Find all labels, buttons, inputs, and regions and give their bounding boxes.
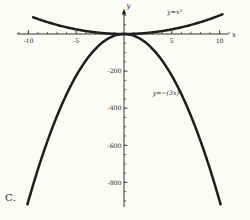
y-axis-tick-label: -800	[108, 179, 122, 186]
x-axis-label: x	[232, 31, 236, 39]
x-axis-tick-label: -10	[23, 37, 33, 44]
answer-choice-label: C.	[5, 192, 16, 203]
y-axis-tick-label: -200	[108, 67, 122, 74]
parabolas-plot: xy-10-5510-200-400-600-800y=x²y=−(3x)²	[0, 0, 250, 220]
y-axis-tick-label: -400	[108, 104, 122, 111]
lower-parabola-equation-label: y=−(3x)²	[152, 89, 182, 97]
upper-parabola-curve	[33, 14, 222, 34]
textbook-figure-c: xy-10-5510-200-400-600-800y=x²y=−(3x)² C…	[0, 0, 250, 220]
x-axis-tick-label: -5	[73, 37, 79, 44]
x-axis-tick-label: 10	[216, 37, 224, 44]
x-axis-tick-label: 5	[170, 37, 174, 44]
y-axis-tick-label: -600	[108, 142, 122, 149]
y-axis-label: y	[126, 2, 132, 10]
upper-parabola-equation-label: y=x²	[166, 8, 182, 16]
